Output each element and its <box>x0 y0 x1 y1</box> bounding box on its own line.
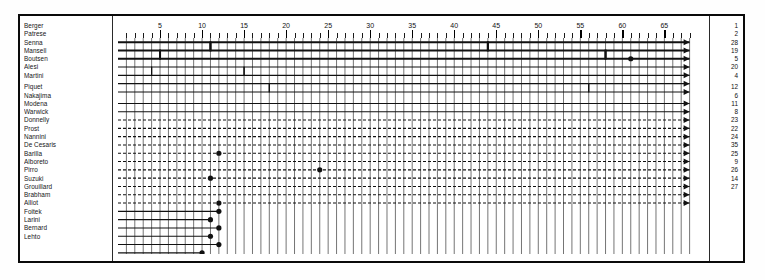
finisher-arrow <box>684 56 690 62</box>
driver-name-label: Boutsen <box>24 55 48 63</box>
finisher-arrow <box>684 200 690 206</box>
retirement-dot <box>208 217 213 222</box>
driver-name-label: Berger <box>24 22 43 30</box>
finishing-position-value: 12 <box>714 83 740 91</box>
driver-name-label: Foitek <box>24 208 42 216</box>
lap-axis: 5101520253035404550556065 <box>118 16 698 38</box>
driver-name-row: Foitek <box>24 208 110 216</box>
lap-chart-svg <box>118 38 698 254</box>
driver-name-label: Alliot <box>24 199 38 207</box>
finisher-arrow <box>684 142 690 148</box>
driver-name-row: Boutsen <box>24 55 110 63</box>
driver-name-row: Mansell <box>24 47 110 55</box>
driver-name-label: Piquet <box>24 83 42 91</box>
driver-name-label: Mansell <box>24 47 46 55</box>
finisher-arrow <box>684 183 690 189</box>
retirement-dot <box>199 250 204 254</box>
driver-name-row: Alliot <box>24 199 110 207</box>
driver-name-label: Martini <box>24 72 44 80</box>
finishing-position-value: 1 <box>714 22 740 30</box>
driver-name-row: Nakajima <box>24 92 110 100</box>
driver-name-label: Brabham <box>24 191 50 199</box>
driver-name-row: Bernard <box>24 224 110 232</box>
driver-name-label: Alboreto <box>24 158 48 166</box>
driver-name-row: Modena <box>24 100 110 108</box>
driver-name-row: Prost <box>24 125 110 133</box>
lap-axis-label: 5 <box>158 22 162 29</box>
driver-name-label: Suzuki <box>24 175 43 183</box>
retirement-dot <box>208 234 213 239</box>
lap-tick-major <box>454 30 455 38</box>
lap-tick-major <box>496 30 497 38</box>
driver-name-label: Barilla <box>24 150 42 158</box>
driver-name-row: Grouillard <box>24 183 110 191</box>
finishing-position-value: 28 <box>714 39 740 47</box>
finishing-position-value: 2 <box>714 30 740 38</box>
retirement-dot <box>216 225 221 230</box>
finishing-position-value: 24 <box>714 133 740 141</box>
driver-name-row: Lehto <box>24 233 110 241</box>
driver-name-row: Alesi <box>24 63 110 71</box>
retirement-dot <box>216 209 221 214</box>
retirement-dot <box>628 56 633 61</box>
finisher-arrow <box>684 39 690 45</box>
lap-tick-major <box>370 30 371 38</box>
finishing-position-value: 4 <box>714 72 740 80</box>
lap-axis-label: 45 <box>492 22 500 29</box>
lap-tick-major <box>328 30 329 38</box>
retirement-dot <box>216 242 221 247</box>
driver-name-label: Donnelly <box>24 116 49 124</box>
finishing-position-value: 26 <box>714 166 740 174</box>
finisher-arrow <box>684 81 690 87</box>
retirement-dot <box>216 151 221 156</box>
finishing-position-value: 27 <box>714 183 740 191</box>
lap-axis-label: 65 <box>660 22 668 29</box>
finisher-arrow <box>684 72 690 78</box>
driver-name-row: Pirro <box>24 166 110 174</box>
finishing-position-value: 9 <box>714 158 740 166</box>
lap-axis-label: 10 <box>198 22 206 29</box>
finishing-position-value: 5 <box>714 55 740 63</box>
lap-tick-major <box>160 30 161 38</box>
finisher-arrow <box>684 159 690 165</box>
lap-chart-page: BergerPatreseSennaMansellBoutsenAlesiMar… <box>0 0 765 280</box>
driver-name-row: Piquet <box>24 83 110 91</box>
lap-tick-major <box>202 30 203 38</box>
lap-axis-label: 35 <box>408 22 416 29</box>
driver-name-label: Pirro <box>24 166 38 174</box>
retirement-dot <box>317 167 322 172</box>
driver-name-label: Warwick <box>24 108 48 116</box>
driver-name-row: Nannini <box>24 133 110 141</box>
finishing-position-value: 25 <box>714 150 740 158</box>
driver-name-row: Donnelly <box>24 116 110 124</box>
finisher-arrow <box>684 192 690 198</box>
finisher-arrow <box>684 150 690 156</box>
lap-tick-major <box>622 30 623 38</box>
lap-axis-label: 25 <box>324 22 332 29</box>
driver-name-row: Patrese <box>24 30 110 38</box>
driver-name-label: Modena <box>24 100 47 108</box>
lap-axis-label: 40 <box>450 22 458 29</box>
driver-name-row: Larini <box>24 216 110 224</box>
finishing-position-value: 6 <box>714 92 740 100</box>
finishing-position-value: 19 <box>714 47 740 55</box>
lap-tick-major <box>244 30 245 38</box>
lap-tick-major <box>412 30 413 38</box>
finishing-position-value: 23 <box>714 116 740 124</box>
finishing-position-value: 20 <box>714 63 740 71</box>
finisher-arrow <box>684 89 690 95</box>
name-column-divider <box>112 16 113 261</box>
lap-tick-major <box>664 30 665 38</box>
lap-axis-label: 20 <box>282 22 290 29</box>
lap-axis-label: 55 <box>576 22 584 29</box>
lap-axis-label: 50 <box>534 22 542 29</box>
driver-name-label: Grouillard <box>24 183 52 191</box>
finishing-position-value: 11 <box>714 100 740 108</box>
driver-name-label: Larini <box>24 216 40 224</box>
lap-tick-major <box>580 30 581 38</box>
retirement-dot <box>208 176 213 181</box>
driver-name-row: Warwick <box>24 108 110 116</box>
driver-name-row: Barilla <box>24 150 110 158</box>
driver-name-row: Senna <box>24 39 110 47</box>
driver-name-row: Alboreto <box>24 158 110 166</box>
